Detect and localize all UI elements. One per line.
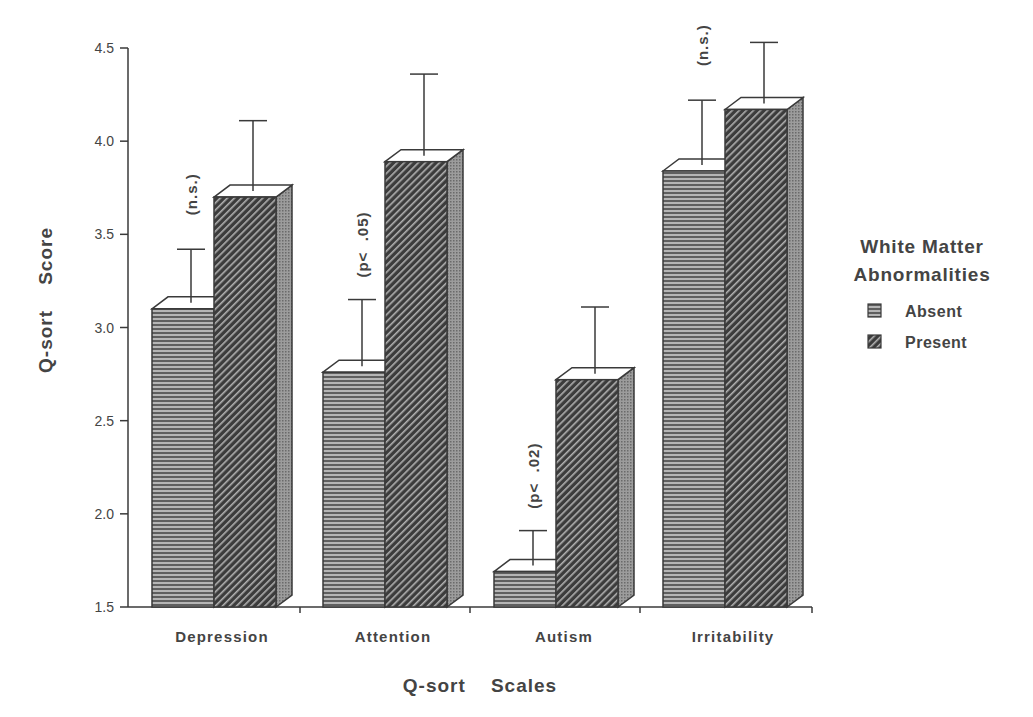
bar-present: [385, 74, 463, 607]
x-tick-label: Irritability: [692, 628, 775, 645]
y-axis-title: Q-sort Score: [35, 227, 56, 373]
y-tick-label: 4.0: [95, 133, 115, 149]
bar-group-depression: [152, 121, 292, 607]
legend-label-present: Present: [905, 334, 967, 351]
y-tick-label: 1.5: [95, 599, 115, 615]
y-tick-label: 3.5: [95, 226, 115, 242]
y-tick-label: 2.0: [95, 506, 115, 522]
x-tick-label: Autism: [535, 628, 593, 645]
x-tick-label: Depression: [175, 628, 269, 645]
bar-group-autism: [494, 307, 634, 607]
significance-label: (n.s.): [183, 173, 200, 215]
significance-label: (p< .05): [354, 211, 371, 277]
bar-group-attention: [323, 74, 463, 607]
x-tick-label: Attention: [355, 628, 432, 645]
bar-group-irritability: [663, 42, 803, 607]
chart-canvas: 1.52.02.53.03.54.04.5 Q-sort Score Depre…: [0, 0, 1033, 717]
legend-title-line2: Abnormalities: [853, 264, 990, 285]
bar-present: [556, 307, 634, 607]
bar-present: [725, 42, 803, 607]
x-axis-title: Q-sort Scales: [403, 675, 557, 696]
legend-swatch-present: [868, 335, 881, 348]
bar-groups: [152, 42, 803, 607]
y-tick-label: 4.5: [95, 40, 115, 56]
y-axis: 1.52.02.53.03.54.04.5 Q-sort Score: [35, 40, 128, 615]
significance-label: (n.s.): [694, 24, 711, 66]
legend: White Matter Abnormalities Absent Presen…: [853, 236, 990, 351]
legend-title-line1: White Matter: [860, 236, 984, 257]
x-axis: DepressionAttentionAutismIrritability Q-…: [128, 607, 812, 696]
bar-present: [214, 121, 292, 607]
y-tick-label: 2.5: [95, 413, 115, 429]
legend-label-absent: Absent: [905, 303, 962, 320]
y-tick-label: 3.0: [95, 320, 115, 336]
significance-label: (p< .02): [525, 443, 542, 509]
bar-chart: 1.52.02.53.03.54.04.5 Q-sort Score Depre…: [0, 0, 1033, 717]
legend-swatch-absent: [868, 304, 881, 317]
